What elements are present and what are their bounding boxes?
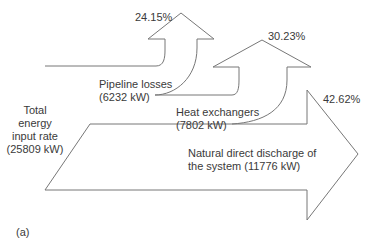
pipeline-label: Pipeline losses (6232 kW) [99, 78, 172, 104]
input-label-line2: energy [2, 117, 68, 130]
pipeline-label-line2: (6232 kW) [99, 91, 172, 104]
input-label-line3: input rate [2, 130, 68, 143]
input-label-line1: Total [2, 104, 68, 117]
heat-exchanger-label: Heat exchangers (7802 kW) [176, 106, 259, 132]
heat-exchanger-percent: 30.23% [268, 30, 305, 43]
panel-label: (a) [16, 226, 29, 239]
heat-exchanger-label-line1: Heat exchangers [176, 106, 259, 119]
discharge-label-line1: Natural direct discharge of [188, 147, 316, 160]
discharge-percent: 42.62% [323, 93, 360, 106]
discharge-label: Natural direct discharge of the system (… [188, 147, 316, 173]
pipeline-percent: 24.15% [135, 11, 172, 24]
input-label-line4: (25809 kW) [2, 143, 68, 156]
discharge-label-line2: the system (11776 kW) [188, 160, 316, 173]
heat-exchanger-label-line2: (7802 kW) [176, 119, 259, 132]
pipeline-label-line1: Pipeline losses [99, 78, 172, 91]
input-label: Total energy input rate (25809 kW) [2, 104, 68, 156]
